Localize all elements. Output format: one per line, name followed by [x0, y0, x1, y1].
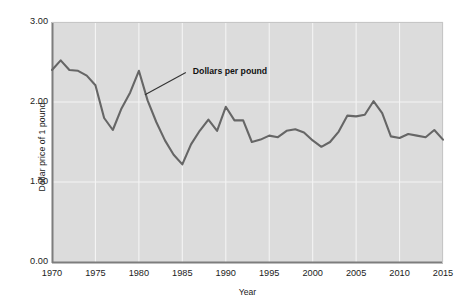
series-annotation-label: Dollars per pound — [193, 66, 267, 76]
line-chart: 0.001.002.003.00 19701975198019851990199… — [0, 0, 465, 303]
x-tick-label: 1980 — [119, 268, 159, 278]
y-tick-label: 0.00 — [16, 256, 48, 266]
x-tick-label: 1985 — [162, 268, 202, 278]
x-tick-label: 2000 — [293, 268, 333, 278]
x-tick-label: 1975 — [75, 268, 115, 278]
x-tick-label: 1995 — [249, 268, 289, 278]
y-tick-label: 3.00 — [16, 16, 48, 26]
x-axis-title: Year — [52, 287, 443, 297]
x-tick-label: 1990 — [206, 268, 246, 278]
y-axis-title: Dollar price of 1 pound — [37, 47, 47, 247]
x-tick-label: 1970 — [32, 268, 72, 278]
x-tick-label: 2005 — [336, 268, 376, 278]
plot-background — [52, 22, 443, 263]
chart-plot-area — [0, 0, 465, 303]
x-tick-label: 2010 — [380, 268, 420, 278]
x-tick-label: 2015 — [423, 268, 463, 278]
